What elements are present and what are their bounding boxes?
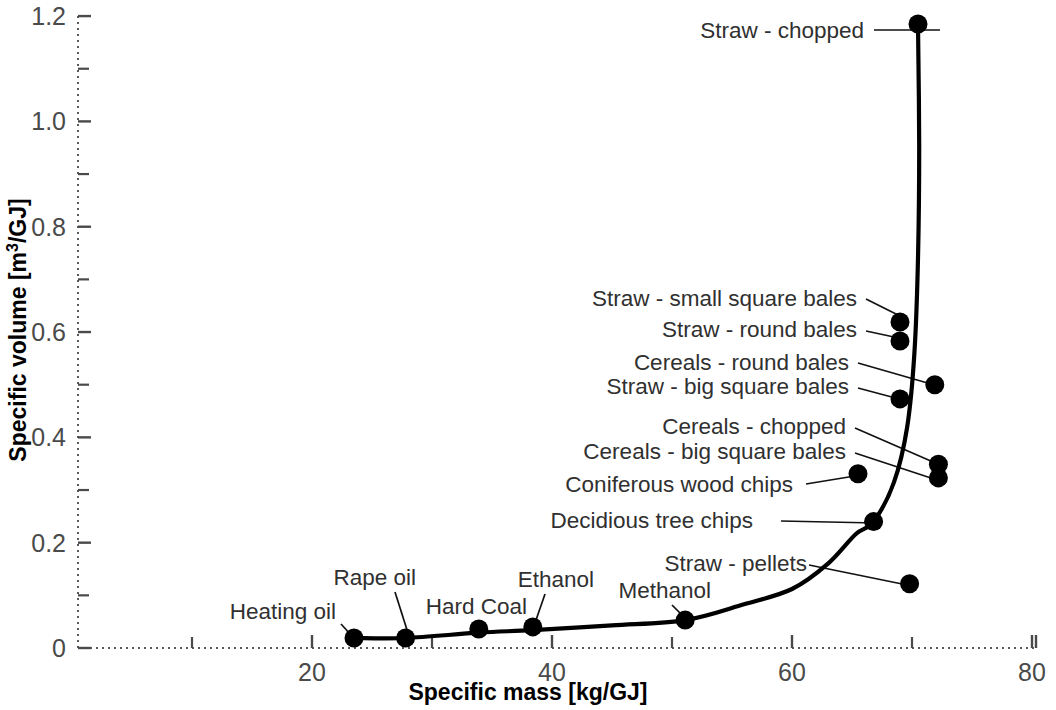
point-labels-group: Straw - choppedStraw - small square bale… (230, 18, 864, 624)
data-point: Rape oil (396, 629, 415, 648)
point-label: Cereals - chopped (662, 414, 846, 439)
point-label: Straw - small square bales (592, 286, 857, 311)
x-tick-label: 80 (1018, 658, 1046, 686)
point-label: Hard Coal (426, 594, 527, 619)
y-axis-title: Specific volume [m3/GJ] (4, 198, 32, 461)
point-label: Coniferous wood chips (565, 472, 793, 497)
x-axis-title: Specific mass [kg/GJ] (408, 679, 647, 705)
data-point: Straw - small square bales (891, 313, 910, 332)
data-point: Cereals - round bales (925, 375, 944, 394)
y-tick-label: 0.2 (31, 529, 66, 557)
point-label: Decidious tree chips (550, 508, 753, 533)
point-label: Straw - round bales (662, 317, 857, 342)
point-label: Heating oil (230, 599, 336, 624)
data-points-group: Heating oilRape oilHard CoalEthanolMetha… (345, 15, 948, 648)
point-label: Cereals - big square bales (583, 439, 846, 464)
label-leader-line (395, 592, 408, 633)
point-label: Straw - big square bales (606, 374, 849, 399)
data-point: Straw - big square bales (891, 389, 910, 408)
data-point: Straw - chopped (909, 15, 928, 34)
x-tick-label: 60 (778, 658, 806, 686)
y-tick-label: 1.0 (31, 107, 66, 135)
data-point: Straw - round bales (891, 332, 910, 351)
scatter-plot-canvas: 00.20.40.60.81.01.220406080 Heating oilR… (0, 0, 1056, 710)
label-leader-line (781, 521, 876, 523)
y-tick-label: 0.4 (31, 423, 66, 451)
point-label: Straw - pellets (664, 551, 807, 576)
y-tick-label: 0.6 (31, 318, 66, 346)
point-label: Ethanol (518, 567, 594, 592)
data-point: Ethanol (523, 617, 542, 636)
data-point: Straw - pellets (900, 574, 919, 593)
data-point: Methanol (676, 611, 695, 630)
y-axis-title-tail: /GJ] (5, 198, 31, 243)
data-point: Coniferous wood chips (849, 464, 868, 483)
y-tick-label: 0 (52, 634, 66, 662)
tick-marks-group (78, 16, 1036, 648)
y-tick-label: 1.2 (31, 2, 66, 30)
label-leader-line (855, 428, 940, 465)
y-tick-label: 0.8 (31, 213, 66, 241)
y-axis-title-main: Specific volume [m (5, 252, 31, 462)
point-label: Methanol (618, 578, 711, 603)
axes-group (78, 16, 1036, 648)
x-tick-label: 20 (298, 658, 326, 686)
data-point: Hard Coal (469, 620, 488, 639)
point-label: Rape oil (333, 565, 416, 590)
data-point: Cereals - chopped (929, 455, 948, 474)
data-point: Decidious tree chips (864, 512, 883, 531)
y-axis-title-superscript: 3 (4, 243, 21, 252)
point-label: Straw - chopped (700, 18, 864, 43)
point-label: Cereals - round bales (634, 350, 849, 375)
data-point: Heating oil (345, 629, 364, 648)
chart-figure: 00.20.40.60.81.01.220406080 Heating oilR… (0, 0, 1056, 710)
